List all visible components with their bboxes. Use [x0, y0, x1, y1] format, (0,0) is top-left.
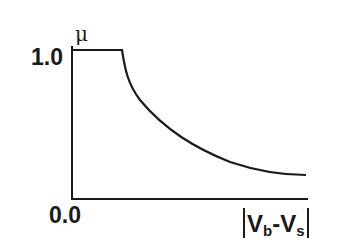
abs-bar-left — [243, 208, 245, 238]
x-axis-label: Vb-Vs — [241, 208, 311, 238]
x-label-sub-b: b — [263, 222, 272, 239]
mu-curve — [72, 50, 306, 175]
y-tick-1: 1.0 — [31, 46, 63, 69]
x-tick-0: 0.0 — [49, 204, 81, 227]
abs-bar-right — [307, 208, 309, 238]
y-axis-label: μ — [75, 24, 88, 44]
x-label-sub-s: s — [296, 222, 304, 239]
x-label-dash: - — [272, 210, 280, 237]
x-label-v2: V — [280, 210, 296, 237]
x-label-v1: V — [247, 210, 263, 237]
